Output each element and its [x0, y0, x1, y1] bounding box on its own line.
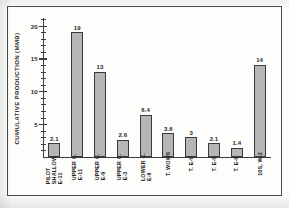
bar-group: 6.4: [140, 107, 152, 157]
plot-area: 5101520 2.119132.66.43.632.11.414: [43, 18, 271, 158]
x-axis-label-slot: LOWER C.E-9: [134, 161, 157, 205]
x-axis-label: T. E-9: [211, 157, 217, 172]
bar-value-label: 3: [189, 130, 192, 136]
x-axis-label-slot: T. WOW6: [157, 161, 180, 205]
bar-value-label: 2.1: [210, 136, 219, 142]
bar-group: 2.1: [208, 136, 220, 157]
bar: [94, 72, 106, 157]
x-axis-label-slot: T. E-9: [203, 161, 226, 205]
bar-value-label: 19: [74, 25, 81, 31]
y-axis-major-tick: [39, 58, 47, 59]
x-axis-label-slot: 10S, W-2: [248, 161, 271, 205]
y-axis-minor-tick: [41, 52, 46, 53]
y-axis-minor-tick: [41, 85, 46, 86]
y-axis-minor-tick: [41, 45, 46, 46]
y-axis-minor-tick: [41, 32, 46, 33]
y-axis-title-text: CUMULATIVE PRODUCTION (MMB): [14, 32, 21, 144]
y-axis-major-tick: [39, 91, 47, 92]
y-axis-major-tick: [39, 26, 47, 27]
x-axis-label: UPPER C.E-9: [94, 154, 106, 181]
y-axis-minor-tick: [41, 118, 46, 119]
bar-value-label: 3.6: [164, 126, 173, 132]
bar-value-label: 2.6: [118, 132, 127, 138]
x-axis-label-slot: PILOTSHALLOWE-11: [43, 161, 66, 205]
bar-group: 14: [254, 57, 266, 157]
bar-group: 3: [185, 130, 197, 157]
y-axis-minor-tick: [41, 19, 46, 20]
bar-group: 13: [94, 64, 106, 157]
y-axis-minor-tick: [41, 131, 46, 132]
bar-value-label: 14: [256, 57, 263, 63]
y-axis-major-tick: [39, 124, 47, 125]
x-axis-label: PILOTSHALLOWE-11: [45, 156, 63, 184]
y-axis-minor-tick: [41, 104, 46, 105]
bar: [185, 137, 197, 157]
bar-value-label: 13: [97, 64, 104, 70]
y-axis-minor-tick: [41, 65, 46, 66]
y-axis-minor-tick: [41, 98, 46, 99]
y-axis-minor-tick: [41, 137, 46, 138]
y-axis-tick-label: 10: [31, 88, 38, 95]
y-axis-tick-label: 5: [34, 121, 38, 128]
bar: [254, 65, 266, 157]
x-axis-label-slot: T. E-9: [225, 161, 248, 205]
x-axis-label: T. E-9: [234, 157, 240, 172]
x-axis-label-slot: T. E-9: [180, 161, 203, 205]
bar: [140, 115, 152, 157]
x-axis-label-slot: UPPER C.E-11: [66, 161, 89, 205]
chart-figure: CUMULATIVE PRODUCTION (MMB) 5101520 2.11…: [0, 0, 289, 208]
bar: [71, 32, 83, 157]
x-axis-label: T. WOW6: [165, 152, 171, 176]
x-axis-label: UPPER C.E-3: [117, 154, 129, 181]
bar-group: 2.1: [48, 136, 60, 157]
bar-value-label: 1.4: [232, 140, 241, 146]
x-axis-label-slot: UPPER C.E-3: [111, 161, 134, 205]
y-axis-minor-tick: [41, 144, 46, 145]
y-axis-minor-tick: [41, 72, 46, 73]
y-axis-minor-tick: [41, 39, 46, 40]
x-axis-label: T. E-9: [188, 157, 194, 172]
y-axis-minor-tick: [41, 111, 46, 112]
y-axis-tick-label: 20: [31, 22, 38, 29]
bar-group: 1.4: [231, 140, 243, 157]
y-axis-minor-tick: [41, 150, 46, 151]
bar-value-label: 6.4: [141, 107, 150, 113]
x-axis-label: 10S, W-2: [257, 152, 263, 176]
bar: [208, 143, 220, 157]
y-axis-minor-tick: [41, 78, 46, 79]
x-axis-label: LOWER C.E-9: [140, 153, 152, 181]
x-axis-label: UPPER C.E-11: [71, 154, 83, 181]
bar-group: 19: [71, 25, 83, 157]
bar-value-label: 2.1: [50, 136, 59, 142]
y-axis-tick-label: 15: [31, 55, 38, 62]
y-axis-title: CUMULATIVE PRODUCTION (MMB): [12, 18, 22, 158]
x-axis-label-slot: UPPER C.E-9: [89, 161, 112, 205]
